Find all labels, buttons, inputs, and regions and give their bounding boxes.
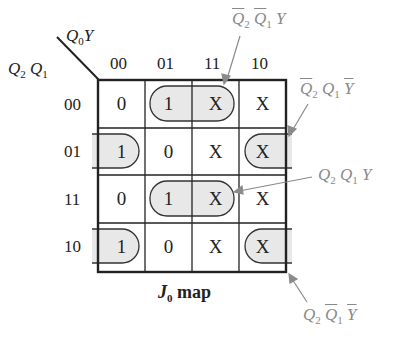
var-q1-sub: 1 [42,68,48,80]
term-q2-bar: Q [300,79,312,98]
cell-01-01: 0 [145,128,192,175]
cell-01-00: 1 [98,128,145,175]
cell-00-11: X [192,80,239,127]
cell-10-10: X [239,223,286,270]
cell-11-10: X [239,175,286,222]
col-header-11: 11 [204,55,220,72]
term-sub: 2 [312,88,318,100]
cell-10-01: 0 [145,223,192,270]
term-y: Y [276,9,285,28]
cell-00-10: X [239,80,286,127]
cell-11-01: 1 [145,175,192,222]
col-header-10: 10 [251,55,268,72]
var-q0: Q [66,26,78,45]
term-y: Y [362,165,371,184]
var-y: Y [84,26,93,45]
var-q1: Q [30,59,42,78]
cell-10-11: X [192,223,239,270]
term-sub: 1 [266,18,272,30]
col-header-01: 01 [157,55,174,72]
term-q1-bar: Q [325,305,337,324]
row-variables-label: Q2 Q1 [8,60,48,80]
term-sub: 2 [315,314,321,326]
map-title: J0 map [158,282,211,304]
term-q1: Q [322,79,334,98]
term-q2-bar: Q [232,9,244,28]
cell-01-10: X [239,128,286,175]
annotation-top: Q2 Q1 Y [232,10,286,30]
term-sub: 2 [244,18,250,30]
term-q2: Q [303,305,315,324]
row-header-01: 01 [64,143,81,160]
term-sub: 1 [334,88,340,100]
term-sub: 1 [337,314,343,326]
term-q1-bar: Q [254,9,266,28]
annotation-right-upper: Q2 Q1 Y [300,80,354,100]
column-variables-label: Q0Y [66,27,93,47]
title-var: J [158,282,167,302]
cell-00-01: 1 [145,80,192,127]
cell-11-00: 0 [98,175,145,222]
cell-10-00: 1 [98,223,145,270]
var-q2-sub: 2 [20,68,26,80]
var-q2: Q [8,59,20,78]
title-suffix: map [173,282,212,302]
term-q1: Q [340,165,352,184]
term-q2: Q [318,165,330,184]
annotation-bottom: Q2 Q1 Y [303,306,357,326]
annotation-right-middle: Q2 Q1 Y [318,166,372,186]
row-header-00: 00 [64,96,81,113]
term-sub: 2 [330,174,336,186]
row-header-11: 11 [64,191,80,208]
term-y-bar: Y [344,79,353,98]
cell-11-11: X [192,175,239,222]
cell-00-00: 0 [98,80,145,127]
col-header-00: 00 [110,55,127,72]
term-sub: 1 [352,174,358,186]
term-y-bar: Y [347,305,356,324]
cell-01-11: X [192,128,239,175]
row-header-10: 10 [64,238,81,255]
